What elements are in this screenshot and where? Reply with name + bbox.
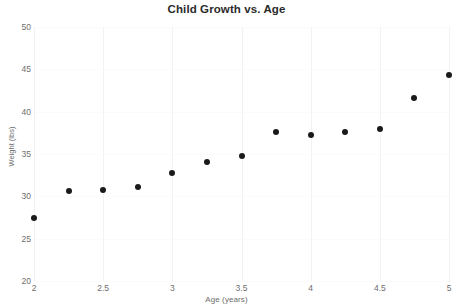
y-axis-tick-label: 40 — [5, 107, 31, 116]
data-point — [411, 95, 417, 101]
data-point — [169, 170, 175, 176]
data-point — [135, 184, 141, 190]
gridline-vertical — [34, 27, 35, 281]
data-point — [273, 129, 279, 135]
gridline-vertical — [449, 27, 450, 281]
plot-area — [34, 27, 449, 281]
gridline-vertical — [103, 27, 104, 281]
y-axis-tick-labels: 20253035404550 — [0, 0, 31, 308]
x-axis-label: Age (years) — [0, 295, 453, 304]
x-axis-tick-label: 3 — [170, 284, 175, 293]
y-axis-tick-label: 50 — [5, 23, 31, 32]
data-point — [377, 126, 383, 132]
x-axis-tick-label: 5 — [447, 284, 452, 293]
x-axis-tick-label: 4.5 — [374, 284, 386, 293]
data-point — [308, 132, 314, 138]
x-axis-tick-label: 2 — [32, 284, 37, 293]
data-point — [446, 72, 452, 78]
gridline-vertical — [172, 27, 173, 281]
data-point — [100, 187, 106, 193]
data-point — [31, 215, 37, 221]
data-point — [66, 188, 72, 194]
data-point — [239, 153, 245, 159]
data-point — [204, 159, 210, 165]
y-axis-tick-label: 25 — [5, 234, 31, 243]
chart-container: Child Growth vs. Age Weight (lbs) 202530… — [0, 0, 453, 308]
gridline-vertical — [311, 27, 312, 281]
data-point — [342, 129, 348, 135]
y-axis-tick-label: 35 — [5, 150, 31, 159]
y-axis-tick-label: 30 — [5, 192, 31, 201]
x-axis-tick-label: 3.5 — [236, 284, 248, 293]
x-axis-tick-label: 2.5 — [97, 284, 109, 293]
gridline-horizontal — [34, 281, 449, 282]
y-axis-tick-label: 20 — [5, 277, 31, 286]
y-axis-tick-label: 45 — [5, 65, 31, 74]
x-axis-tick-label: 4 — [308, 284, 313, 293]
chart-title: Child Growth vs. Age — [0, 3, 453, 15]
gridline-vertical — [380, 27, 381, 281]
